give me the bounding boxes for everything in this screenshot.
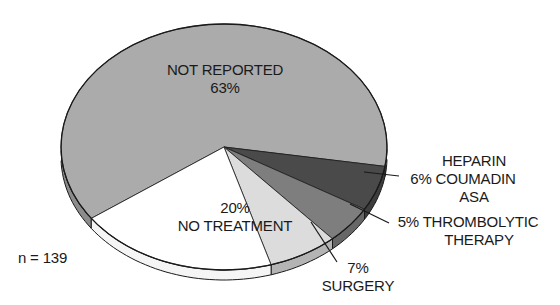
label-not-reported: NOT REPORTED 63% xyxy=(150,61,300,97)
label-no-treatment: 20% NO TREATMENT xyxy=(175,199,295,235)
label-heparin-line1: HEPARIN xyxy=(404,152,522,170)
sample-size-label: n = 139 xyxy=(18,249,67,267)
label-surgery: 7% SURGERY xyxy=(316,259,400,295)
label-not-reported-pct: 63% xyxy=(150,79,300,97)
label-heparin: HEPARIN 6% COUMADIN ASA xyxy=(404,152,522,206)
label-not-reported-name: NOT REPORTED xyxy=(150,61,300,79)
label-heparin-line3: ASA xyxy=(404,188,522,206)
label-thrombolytic-line2: THERAPY xyxy=(392,231,544,249)
label-surgery-pct: 7% xyxy=(316,259,400,277)
label-heparin-line2: 6% COUMADIN xyxy=(404,170,522,188)
label-no-treatment-pct: 20% xyxy=(175,199,295,217)
label-thrombolytic-line1: 5% THROMBOLYTIC xyxy=(392,213,544,231)
label-surgery-name: SURGERY xyxy=(316,277,400,295)
label-no-treatment-name: NO TREATMENT xyxy=(175,217,295,235)
label-thrombolytic: 5% THROMBOLYTIC THERAPY xyxy=(392,213,544,249)
